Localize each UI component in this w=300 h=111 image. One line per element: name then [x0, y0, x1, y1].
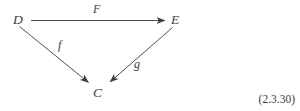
node-label-C: C: [93, 86, 102, 100]
edge-label-g: g: [134, 58, 140, 70]
arrow-D-to-C: [20, 27, 89, 83]
figure-canvas: D E C F f g (2.3.30): [0, 0, 300, 111]
edge-label-F: F: [93, 3, 100, 15]
diagram-arrows: [0, 0, 300, 111]
node-label-E: E: [171, 13, 179, 27]
node-label-D: D: [13, 13, 23, 27]
equation-number: (2.3.30): [259, 93, 295, 105]
edge-label-f: f: [58, 39, 61, 51]
arrow-E-to-C: [110, 28, 173, 83]
